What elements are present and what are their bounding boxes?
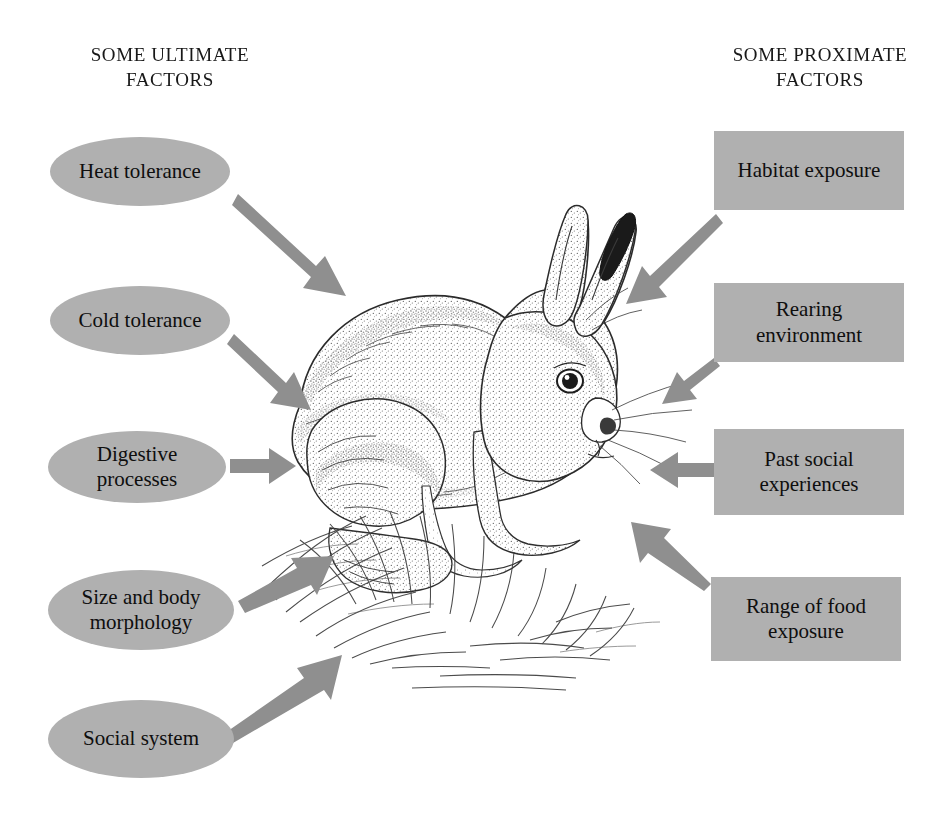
arrow-rearing-environment [662, 358, 720, 404]
node-heat-tolerance[interactable]: Heat tolerance [50, 137, 230, 206]
arrow-past-social-experiences [650, 452, 714, 488]
node-label: Heat tolerance [69, 159, 211, 184]
arrow-cold-tolerance [227, 334, 311, 410]
arrow-range-food-exposure [631, 522, 711, 591]
node-range-of-food-exposure[interactable]: Range of food exposure [711, 577, 901, 661]
arrow-size-morphology [238, 556, 334, 613]
node-digestive-processes[interactable]: Digestive processes [48, 431, 226, 503]
node-rearing-environment[interactable]: Rearing environment [714, 283, 904, 362]
node-label: Range of food exposure [736, 594, 876, 644]
node-size-and-body-morphology[interactable]: Size and body morphology [48, 570, 234, 650]
node-label: Past social experiences [749, 447, 868, 497]
node-label: Rearing environment [746, 297, 872, 347]
arrow-heat-tolerance [232, 194, 346, 296]
node-label: Cold tolerance [68, 308, 211, 333]
node-label: Social system [73, 726, 209, 751]
node-social-system[interactable]: Social system [48, 700, 234, 778]
proximate-factors-heading: SOME PROXIMATE FACTORS [684, 42, 952, 93]
node-label: Habitat exposure [728, 158, 891, 183]
arrow-digestive-processes [230, 448, 296, 484]
node-label: Size and body morphology [72, 585, 211, 635]
diagram-canvas: SOME ULTIMATE FACTORS SOME PROXIMATE FAC… [0, 0, 952, 839]
ultimate-factors-heading: SOME ULTIMATE FACTORS [36, 42, 304, 93]
node-label: Digestive processes [87, 442, 187, 492]
node-cold-tolerance[interactable]: Cold tolerance [50, 286, 230, 355]
node-past-social-experiences[interactable]: Past social experiences [714, 429, 904, 515]
arrow-habitat-exposure [626, 214, 723, 304]
node-habitat-exposure[interactable]: Habitat exposure [714, 131, 904, 210]
arrow-social-system [225, 655, 342, 743]
